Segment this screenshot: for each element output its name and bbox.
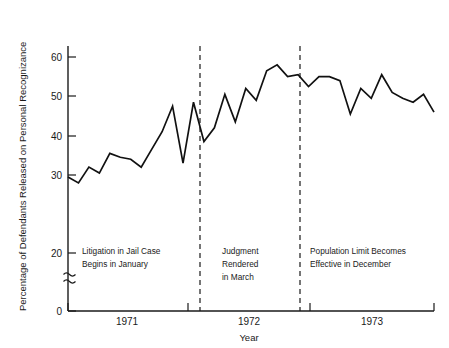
annotation-litigation-line1: Litigation in Jail Case	[82, 246, 161, 256]
x-tick-label-1971: 1971	[116, 316, 139, 327]
x-tick-label-1973: 1973	[361, 316, 384, 327]
x-axis-title: Year	[239, 332, 258, 343]
line-chart: 60 50 40 30 20 0 Percentage of Defendant…	[0, 0, 449, 348]
annotation-judgment-line2: Rendered	[222, 259, 259, 269]
x-tick-label-1972: 1972	[238, 316, 261, 327]
y-axis-title: Percentage of Defendants Released on Per…	[17, 42, 28, 311]
y-tick-label-0: 0	[56, 306, 62, 317]
y-tick-label-60: 60	[51, 52, 63, 63]
y-tick-label-20: 20	[51, 248, 63, 259]
annotation-judgment: Judgment Rendered in March	[222, 246, 259, 282]
y-axis-break-symbol	[64, 273, 76, 283]
annotation-litigation: Litigation in Jail Case Begins in Januar…	[82, 246, 161, 269]
data-series-line	[68, 65, 434, 183]
annotation-population-line2: Effective in December	[310, 259, 391, 269]
y-tick-label-50: 50	[51, 91, 63, 102]
y-tick-label-40: 40	[51, 131, 63, 142]
annotation-judgment-line3: in March	[222, 272, 254, 282]
y-axis-ticks	[68, 57, 76, 311]
y-tick-label-30: 30	[51, 170, 63, 181]
chart-container: 60 50 40 30 20 0 Percentage of Defendant…	[0, 0, 449, 348]
annotation-judgment-line1: Judgment	[222, 246, 259, 256]
annotation-population-line1: Population Limit Becomes	[310, 246, 406, 256]
x-axis-ticks	[68, 303, 434, 311]
annotation-litigation-line2: Begins in January	[82, 259, 149, 269]
annotation-population-limit: Population Limit Becomes Effective in De…	[310, 246, 406, 269]
